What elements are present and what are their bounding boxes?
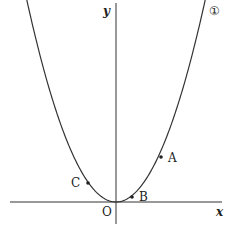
point-a — [159, 155, 163, 159]
origin-label: O — [102, 205, 112, 219]
point-a-label: A — [167, 151, 177, 165]
x-axis-label: x — [215, 205, 224, 219]
point-b-label: B — [139, 190, 148, 204]
curve-label: ① — [209, 4, 220, 18]
parabola-diagram: A B C O x y ① — [0, 0, 231, 232]
point-c-label: C — [71, 176, 80, 190]
point-c — [86, 181, 90, 185]
y-axis-label: y — [102, 4, 111, 18]
point-b — [130, 195, 134, 199]
